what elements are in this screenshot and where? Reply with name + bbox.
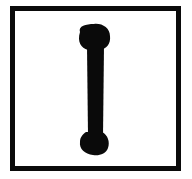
- vertical-bar-icon: [0, 0, 192, 179]
- symbol-card: [0, 0, 192, 179]
